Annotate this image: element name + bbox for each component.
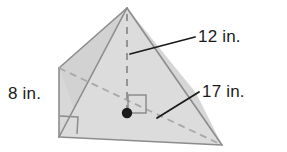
pyramid-diagram-svg — [0, 0, 287, 152]
dimension-label-left-edge: 8 in. — [8, 84, 41, 104]
dimension-label-height: 12 in. — [198, 27, 241, 47]
base-center-dot — [122, 108, 132, 118]
geometry-figure: 8 in. 12 in. 17 in. — [0, 0, 287, 152]
dimension-label-base-edge: 17 in. — [202, 82, 245, 102]
